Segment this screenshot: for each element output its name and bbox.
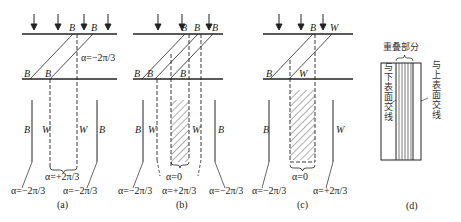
hatched-region bbox=[290, 90, 315, 160]
alpha-label: α=−2π/3 bbox=[11, 185, 45, 196]
label: W bbox=[330, 22, 340, 33]
panel-a: B B B B α=−2π/3 B W W B α=+2π/3 α=−2π/3 … bbox=[11, 14, 117, 211]
label: B bbox=[99, 124, 105, 135]
domain-diagram: B B B B α=−2π/3 B W W B α=+2π/3 α=−2π/3 … bbox=[0, 0, 461, 222]
alpha-label: α=0 bbox=[292, 171, 308, 182]
label: B bbox=[194, 22, 200, 33]
hatched-region bbox=[171, 100, 189, 162]
alpha-label: α=−2π/3 bbox=[252, 185, 286, 196]
panel-b: B B B B B B B W W B α=0 α=−2π/3 α=+2π/3 … bbox=[118, 14, 243, 211]
label: B bbox=[212, 22, 218, 33]
label: B bbox=[266, 68, 272, 79]
panel-c: B W B W B W α=0 α=−2π/3 α=+2π/3 (c) bbox=[252, 14, 353, 211]
alpha-label: α=−2π/3 bbox=[81, 52, 115, 63]
label: B bbox=[147, 68, 153, 79]
panel-d: 重叠部分 与下表面交线 与上表面交线 (d) bbox=[381, 41, 441, 212]
label: B bbox=[180, 68, 186, 79]
label: B bbox=[45, 68, 51, 79]
panel-caption: (c) bbox=[297, 199, 308, 211]
label: B bbox=[24, 68, 30, 79]
alpha-label: α=−2π/3 bbox=[118, 185, 152, 196]
label: B bbox=[134, 68, 140, 79]
upper-surface-label: 与上表面交线 bbox=[432, 60, 441, 120]
lower-surface-label: 与下表面交线 bbox=[384, 62, 393, 122]
label: B bbox=[135, 124, 141, 135]
label: B bbox=[310, 22, 316, 33]
label: W bbox=[148, 124, 158, 135]
label: B bbox=[263, 124, 269, 135]
panel-caption: (b) bbox=[176, 199, 188, 211]
label: W bbox=[299, 68, 309, 79]
alpha-label: α=−2π/3 bbox=[209, 185, 243, 196]
alpha-label: α=+2π/3 bbox=[45, 171, 79, 182]
alpha-label: α=−2π/3 bbox=[63, 185, 97, 196]
alpha-label: α=+2π/3 bbox=[313, 185, 347, 196]
label: W bbox=[42, 124, 52, 135]
panel-caption: (d) bbox=[406, 200, 418, 212]
label: W bbox=[336, 124, 346, 135]
label: B bbox=[69, 22, 75, 33]
panel-caption: (a) bbox=[57, 199, 68, 211]
alpha-label: α=+2π/3 bbox=[162, 185, 196, 196]
label: B bbox=[181, 22, 187, 33]
label: W bbox=[79, 124, 89, 135]
label: B bbox=[91, 22, 97, 33]
label: W bbox=[192, 124, 202, 135]
label: B bbox=[218, 124, 224, 135]
overlap-label: 重叠部分 bbox=[383, 41, 419, 52]
alpha-label: α=0 bbox=[166, 171, 182, 182]
overlap-lines bbox=[399, 63, 411, 160]
label: B bbox=[24, 124, 30, 135]
